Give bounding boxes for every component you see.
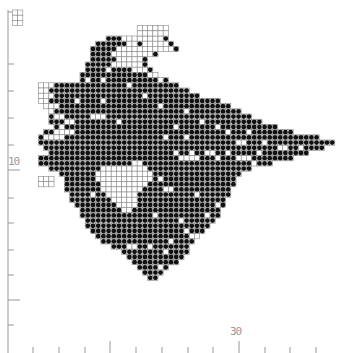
x-axis-label: 30 bbox=[230, 325, 241, 338]
distribution-map bbox=[0, 0, 340, 353]
grid-cells bbox=[38, 36, 334, 280]
y-axis-label: 10 bbox=[8, 155, 19, 168]
